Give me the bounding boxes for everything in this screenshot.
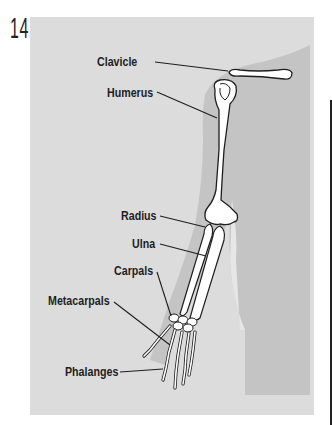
label-humerus: Humerus <box>107 85 153 100</box>
label-radius: Radius <box>121 208 157 223</box>
label-clavicle: Clavicle <box>97 54 137 69</box>
label-metacarpals: Metacarpals <box>48 293 110 308</box>
label-carpals: Carpals <box>114 263 153 278</box>
arm-skeleton-illustration <box>0 0 332 425</box>
label-phalanges: Phalanges <box>65 364 118 379</box>
label-ulna: Ulna <box>132 236 155 251</box>
